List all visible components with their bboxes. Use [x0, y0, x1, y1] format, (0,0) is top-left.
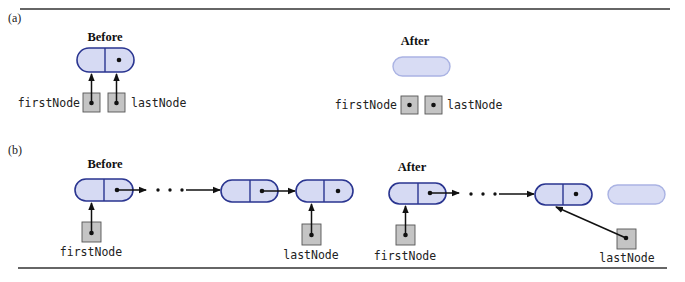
last-node-label: lastNode: [283, 248, 338, 262]
first-node-label: firstNode: [60, 245, 122, 259]
panel-b-after: After: [374, 160, 665, 265]
before-heading: Before: [87, 30, 123, 44]
panel-b: (b) Before: [8, 143, 665, 265]
last-node-ref: [302, 204, 321, 245]
last-node-label: lastNode: [131, 96, 186, 110]
last-node-label: lastNode: [599, 251, 654, 265]
first-node-ref: [82, 203, 101, 242]
last-node-label: lastNode: [447, 98, 502, 112]
first-node-label: firstNode: [18, 96, 80, 110]
first-node-ref-null: [401, 96, 418, 114]
before-heading: Before: [87, 157, 123, 171]
last-node-ref-null: [425, 96, 442, 114]
panel-a-before: Before firstNode lastNode: [18, 30, 187, 112]
ellipsis: [156, 188, 183, 191]
panel-b-before: Before: [60, 157, 353, 262]
panel-a-after: After firstNode lastNode: [335, 34, 503, 114]
node-new-last: [535, 184, 592, 205]
after-heading: After: [401, 34, 430, 48]
first-node-ref: [83, 74, 100, 112]
node: [77, 48, 134, 72]
last-node-ref: [108, 74, 125, 112]
next-pointer-dot: [117, 58, 122, 63]
panel-b-label: (b): [8, 143, 22, 157]
panel-a: (a) Before firstNode lastNode: [8, 11, 502, 114]
linked-list-removal-figure: (a) Before firstNode lastNode: [0, 0, 685, 282]
removed-node-ghost: [393, 57, 450, 76]
node-last: [296, 180, 353, 202]
first-node-label: firstNode: [374, 249, 436, 263]
first-node-ref: [396, 206, 415, 245]
removed-node-ghost: [608, 185, 665, 204]
first-node-label: firstNode: [335, 98, 397, 112]
last-node-ref: [556, 207, 636, 249]
ellipsis: [469, 192, 496, 195]
after-heading: After: [398, 160, 427, 174]
panel-a-label: (a): [8, 11, 21, 25]
